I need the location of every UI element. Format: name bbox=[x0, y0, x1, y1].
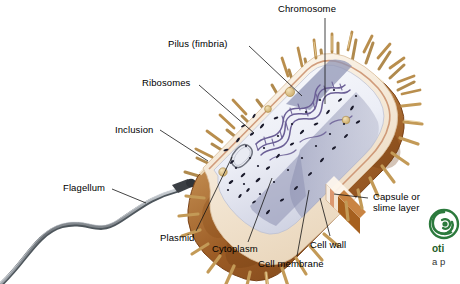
label-flagellum: Flagellum bbox=[63, 182, 105, 193]
logo-wordmark-line1: oti bbox=[432, 243, 444, 254]
label-cell-wall: Cell wall bbox=[310, 239, 346, 250]
spiral-leaf-logo-icon bbox=[428, 208, 460, 240]
label-plasmid: Plasmid bbox=[160, 232, 195, 243]
label-chromosome: Chromosome bbox=[278, 3, 336, 14]
logo-wordmark-line2: a p bbox=[432, 256, 445, 267]
label-capsule-slime-layer: Capsule or slime layer bbox=[373, 191, 420, 213]
label-cytoplasm: Cytoplasm bbox=[212, 243, 258, 254]
label-ribosomes: Ribosomes bbox=[142, 77, 190, 88]
label-pilus-fimbria: Pilus (fimbria) bbox=[168, 38, 228, 49]
label-inclusion: Inclusion bbox=[115, 124, 153, 135]
flagellum-shape bbox=[0, 189, 176, 284]
label-cell-membrane: Cell membrane bbox=[258, 258, 324, 269]
